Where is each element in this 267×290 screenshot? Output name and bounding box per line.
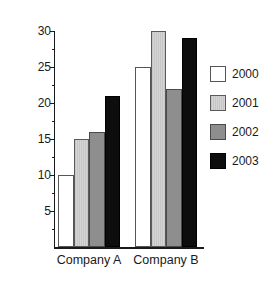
x-axis-line [54,247,204,249]
y-tick-minor-mark [52,229,55,230]
legend-swatch-2000 [210,66,226,82]
y-tick-label: 10 [38,169,51,181]
bar-company-a-2002 [89,132,105,247]
legend-swatch-2001 [210,95,226,111]
bar-company-b-2000 [135,67,151,247]
legend-label-2000: 2000 [232,64,259,84]
legend-swatch-2002 [210,124,226,140]
y-tick-minor-mark [52,49,55,50]
y-tick-label: 15 [38,133,51,145]
bar-company-a-2003 [105,96,121,247]
y-tick-minor-mark [52,193,55,194]
y-tick-minor-mark [52,85,55,86]
y-tick-label: 30 [38,25,51,37]
legend-label-2001: 2001 [232,93,259,113]
bar-company-a-2000 [58,175,74,247]
bar-company-a-2001 [74,139,90,247]
legend-label-2003: 2003 [232,151,259,171]
bar-chart: Percentage Increase in Sales 51015202530… [0,0,267,290]
bar-company-b-2001 [151,31,167,247]
y-tick-label: 20 [38,97,51,109]
y-tick-label: 5 [44,205,51,217]
y-tick-label: 25 [38,61,51,73]
legend-swatch-2003 [210,153,226,169]
plot-area: 51015202530 [55,31,203,247]
bar-company-b-2003 [182,38,198,247]
y-tick-minor-mark [52,121,55,122]
y-tick-minor-mark [52,157,55,158]
x-axis-label-company-b: Company B [121,253,211,268]
legend-label-2002: 2002 [232,122,259,142]
bar-company-b-2002 [166,89,182,247]
